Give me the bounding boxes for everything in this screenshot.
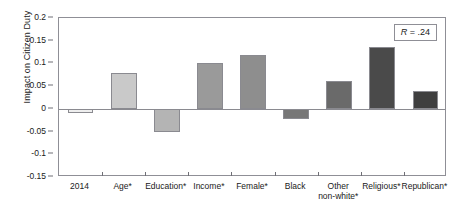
bar [413,91,439,109]
y-tick-label: 0 [41,103,46,113]
y-tick-label: 0.15 [29,35,46,45]
x-tick-mark [275,172,276,176]
y-tick-mark [48,153,53,154]
y-tick-mark [48,176,53,177]
y-tick-label: 0.1 [34,57,46,67]
y-tick-label: -0.15 [27,171,46,181]
y-tick-mark [48,17,53,18]
y-tick-mark [48,107,53,108]
bar [68,109,94,114]
x-tick-label: Other non-white* [318,181,358,201]
y-tick-mark [48,39,53,40]
x-tick-label: Education* [145,181,186,191]
bar [283,109,309,119]
y-tick-mark [48,130,53,131]
bar [111,73,137,109]
x-tick-label: Republican* [402,181,448,191]
x-tick-mark [102,172,103,176]
r-value-annotation: R = .24 [394,24,437,41]
bar [240,55,266,109]
x-tick-label: 2014 [70,181,89,191]
x-tick-label: Female* [236,181,268,191]
x-tick-mark [145,172,146,176]
x-tick-mark [361,172,362,176]
x-tick-label: Religious* [362,181,400,191]
x-tick-label: Age* [113,181,131,191]
r-value-text: = .24 [407,27,430,37]
y-tick-mark [48,62,53,63]
x-tick-mark [318,172,319,176]
bar [369,47,395,109]
y-axis-ticks: 0.20.150.10.050-0.05-0.1-0.15 [0,0,58,211]
bar [154,109,180,132]
plot-area: R = .24 [58,17,446,176]
y-tick-label: 0.05 [29,80,46,90]
x-tick-mark [231,172,232,176]
x-tick-mark [188,172,189,176]
y-tick-label: -0.1 [31,148,46,158]
y-tick-label: -0.05 [27,126,46,136]
zero-line [59,109,445,110]
y-tick-mark [48,85,53,86]
x-tick-label: Income* [193,181,224,191]
bar [197,63,223,109]
y-tick-label: 0.2 [34,12,46,22]
x-tick-mark [404,172,405,176]
bar [326,81,352,109]
x-tick-label: Black [285,181,306,191]
bar-chart: Impact on Citizen Duty 0.20.150.10.050-0… [0,0,453,211]
